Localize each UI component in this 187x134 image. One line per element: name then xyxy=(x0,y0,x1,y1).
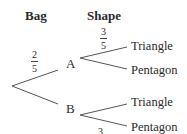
node-b: B xyxy=(66,102,75,115)
numerator: 2 xyxy=(32,50,37,60)
leaf-b-triangle: Triangle xyxy=(131,96,173,109)
branch-b-to-triangle xyxy=(80,104,127,115)
leaf-a-pentagon: Pentagon xyxy=(131,64,178,77)
leaf-b-pentagon: Pentagon xyxy=(131,121,178,134)
leaf-a-triangle: Triangle xyxy=(131,40,173,53)
branch-root-to-b xyxy=(12,86,58,104)
fraction-bar xyxy=(31,61,38,62)
numerator: 3 xyxy=(101,27,106,37)
probability-a-to-triangle: 3 5 xyxy=(100,27,107,51)
denominator: 5 xyxy=(101,41,106,51)
fraction-bar xyxy=(100,38,107,39)
shape-header: Shape xyxy=(87,9,121,22)
probability-b-to-pentagon-partial: 3 xyxy=(98,127,103,134)
numerator: 3 xyxy=(98,127,103,134)
branch-a-to-pentagon xyxy=(80,58,127,69)
probability-root-to-a: 2 5 xyxy=(31,50,38,74)
branch-b-to-pentagon xyxy=(80,115,127,126)
denominator: 5 xyxy=(32,64,37,74)
node-a: A xyxy=(66,57,75,70)
bag-header: Bag xyxy=(25,9,47,22)
